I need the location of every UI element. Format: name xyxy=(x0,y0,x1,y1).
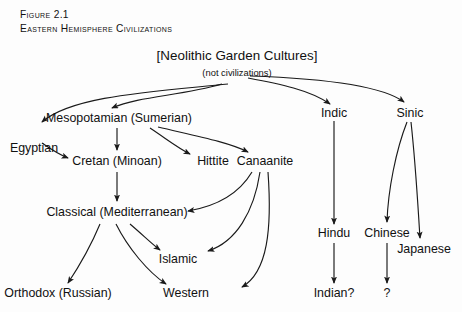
edge-classical-to-islamic xyxy=(130,224,160,250)
node-japanese: Japanese xyxy=(397,242,451,256)
edge-mesopotamian-to-canaanite xyxy=(158,127,248,152)
edge-classical-to-orthodox xyxy=(68,224,100,283)
edge-sinic-to-chinese xyxy=(387,122,407,222)
edge-mesopotamian-to-hittite xyxy=(150,128,190,154)
node-western: Western xyxy=(163,286,209,300)
node-hittite: Hittite xyxy=(197,154,229,168)
node-mesopotamian: Mesopotamian (Sumerian) xyxy=(46,111,192,125)
node-orthodox: Orthodox (Russian) xyxy=(4,286,111,300)
node-sinic: Sinic xyxy=(397,106,424,120)
node-indian: Indian? xyxy=(314,286,355,300)
edge-root-to-sinic xyxy=(250,76,404,102)
edge-canaanite-to-islamic xyxy=(208,172,260,251)
node-canaanite: Canaanite xyxy=(237,154,294,168)
figure-title: Eastern Hemisphere Civilizations xyxy=(20,22,172,36)
node-chinese: Chinese xyxy=(364,226,409,240)
node-hindu: Hindu xyxy=(318,226,350,240)
node-root-annotation: (not civilizations) xyxy=(202,67,271,78)
node-classical: Classical (Mediterranean) xyxy=(46,205,187,219)
node-cretan: Cretan (Minoan) xyxy=(72,154,162,168)
node-indic: Indic xyxy=(321,106,347,120)
figure-caption: Figure 2.1 Eastern Hemisphere Civilizati… xyxy=(20,8,172,37)
edge-root-to-mesopotamian xyxy=(112,84,222,108)
node-egyptian: Egyptian xyxy=(10,141,58,155)
node-islamic: Islamic xyxy=(159,252,198,266)
figure-number: Figure 2.1 xyxy=(20,8,172,22)
edge-sinic-to-japanese xyxy=(411,122,420,238)
figure-diagram: Figure 2.1 Eastern Hemisphere Civilizati… xyxy=(0,0,462,312)
edge-canaanite-to-western xyxy=(242,172,269,287)
edge-canaanite-to-classical xyxy=(188,172,252,211)
edge-root-to-indic xyxy=(248,78,330,104)
node-neolithic-garden-cultures: [Neolithic Garden Cultures] xyxy=(157,48,318,63)
node-chinese-successor: ? xyxy=(384,286,391,300)
